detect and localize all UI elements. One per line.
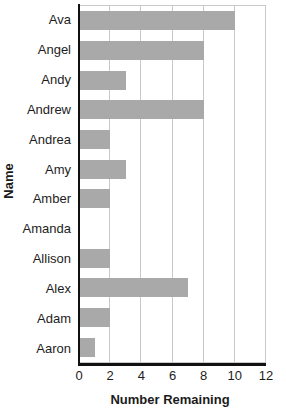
y-axis-tick-label: Adam [18, 303, 75, 333]
x-axis-tick-label: 2 [95, 368, 125, 383]
bar-slot [79, 65, 265, 95]
bar[interactable] [79, 278, 188, 297]
plot-area [79, 5, 266, 363]
y-axis-tick-label: Amber [18, 184, 75, 214]
bar[interactable] [79, 41, 204, 60]
x-axis-title: Number Remaining [60, 392, 280, 407]
y-axis-tick-label: Andrea [18, 124, 75, 154]
x-axis-tick-labels: 024681012 [0, 368, 286, 386]
bar-slot [79, 36, 265, 66]
y-axis-title: Name [0, 151, 18, 211]
bar[interactable] [79, 71, 126, 90]
x-axis-tick-label: 8 [189, 368, 219, 383]
bar-slot [79, 273, 265, 303]
y-axis-tick-label: Alex [18, 273, 75, 303]
bar-slot [79, 125, 265, 155]
bars-group [79, 6, 265, 362]
x-axis-line [78, 363, 266, 366]
y-axis-tick-label: Ava [18, 5, 75, 35]
bar[interactable] [79, 249, 110, 268]
bar-slot [79, 303, 265, 333]
y-axis-tick-label: Andy [18, 65, 75, 95]
y-axis-tick-label: Angel [18, 35, 75, 65]
y-axis-tick-label: Allison [18, 244, 75, 274]
bar-slot [79, 184, 265, 214]
bar-slot [79, 95, 265, 125]
y-axis-tick-label: Amy [18, 154, 75, 184]
bar-slot [79, 6, 265, 36]
x-axis-tick-label: 0 [64, 368, 94, 383]
x-axis-tick-label: 4 [126, 368, 156, 383]
bar[interactable] [79, 189, 110, 208]
bar-slot [79, 243, 265, 273]
bar[interactable] [79, 308, 110, 327]
x-axis-tick-label: 6 [158, 368, 188, 383]
bar-slot [79, 214, 265, 244]
gridline [265, 6, 266, 362]
y-axis-line [78, 4, 80, 365]
y-axis-tick-label: Andrew [18, 94, 75, 124]
bar-chart: Name AvaAngelAndyAndrewAndreaAmyAmberAma… [0, 0, 286, 418]
y-axis-tick-labels: AvaAngelAndyAndrewAndreaAmyAmberAmandaAl… [18, 5, 75, 363]
bar[interactable] [79, 338, 95, 357]
bar[interactable] [79, 160, 126, 179]
y-axis-tick-label: Aaron [18, 333, 75, 363]
bar-slot [79, 154, 265, 184]
bar-slot [79, 332, 265, 362]
bar[interactable] [79, 130, 110, 149]
bar[interactable] [79, 100, 204, 119]
x-axis-tick-label: 12 [251, 368, 281, 383]
y-axis-tick-label: Amanda [18, 214, 75, 244]
bar[interactable] [79, 11, 235, 30]
x-axis-tick-label: 10 [220, 368, 250, 383]
